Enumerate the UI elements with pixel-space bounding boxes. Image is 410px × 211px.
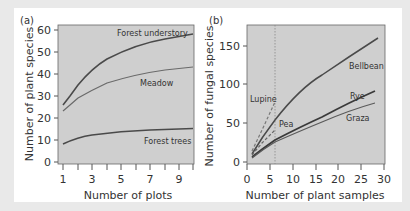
panel-a-tag: (a)	[20, 15, 34, 26]
label-meadow: Meadow	[140, 79, 174, 88]
panel-b-xtick: 5	[267, 173, 274, 186]
panel-a-ytick: 50	[37, 46, 51, 59]
panel-b-xtick: 0	[244, 173, 251, 186]
panel-a-y-axis: 0 10 20 30 40 50 60	[37, 24, 58, 169]
label-forest-trees: Forest trees	[144, 137, 191, 146]
panel-b-xtick: 20	[331, 173, 345, 186]
panel-b-x-axis: 0 5 10 15 20 25 30	[244, 164, 392, 186]
label-pea: Pea	[279, 120, 293, 129]
figure: (a) 0 10 20 30 40 50 60 Number of plant …	[0, 0, 410, 211]
label-bellbean: Bellbean	[349, 62, 384, 71]
panel-a-ytick: 40	[37, 68, 51, 81]
panel-b-ytick: 50	[226, 117, 240, 130]
label-forest-understory: Forest understory	[117, 29, 188, 38]
panel-a-x-label: Number of plots	[84, 189, 173, 202]
label-graza: Graza	[346, 114, 370, 123]
panel-b-ytick: 150	[219, 40, 240, 53]
panel-b-xtick: 30	[377, 173, 391, 186]
label-lupine: Lupine	[250, 95, 277, 104]
panel-a-ytick: 30	[37, 90, 51, 103]
panel-a-xtick: 7	[147, 173, 154, 186]
panel-a-xtick: 3	[89, 173, 96, 186]
panel-b: (b) 0 50 100 150 Number of fungal specie…	[203, 15, 391, 202]
panel-b-tag: (b)	[209, 15, 223, 26]
panel-a-ytick: 10	[37, 134, 51, 147]
panel-b-y-axis: 0 50 100 150	[219, 40, 247, 169]
panel-a-y-label: Number of plant species	[23, 27, 36, 162]
panel-b-xtick: 10	[286, 173, 300, 186]
panel-a-ytick: 0	[44, 156, 51, 169]
label-rye: Rye	[350, 92, 365, 101]
panel-a-xtick: 9	[176, 173, 183, 186]
panel-b-ytick: 0	[233, 156, 240, 169]
panel-a-ytick: 20	[37, 112, 51, 125]
panel-b-xtick: 25	[354, 173, 368, 186]
panel-a-xtick: 5	[118, 173, 125, 186]
panel-a-xtick: 1	[60, 173, 67, 186]
panel-a: (a) 0 10 20 30 40 50 60 Number of plant …	[20, 15, 194, 202]
panel-b-ytick: 100	[219, 78, 240, 91]
panel-b-y-label: Number of fungal species	[203, 25, 216, 166]
panel-a-ytick: 60	[37, 24, 51, 37]
panel-b-xtick: 15	[309, 173, 323, 186]
panel-b-x-label: Number of plant samples	[245, 189, 384, 202]
panel-a-x-axis: 1 3 5 7 9	[60, 164, 194, 186]
